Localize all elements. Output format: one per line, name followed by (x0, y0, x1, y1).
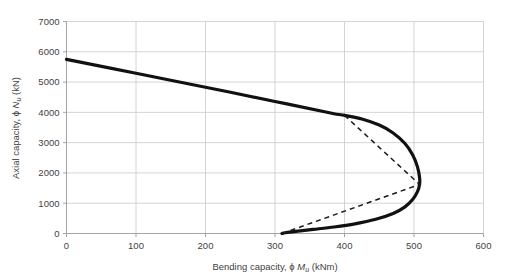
x-axis-title-phi: ϕ (289, 261, 297, 272)
x-tick-labels: 0100200300400500600 (64, 240, 492, 251)
x-axis-title: Bending capacity, ϕ Mu (kNm) (212, 261, 337, 273)
svg-text:Bending capacity, ϕ Mu (kNm): Bending capacity, ϕ Mu (kNm) (212, 261, 337, 273)
y-tick-label: 6000 (38, 46, 59, 57)
x-tick-label: 500 (406, 240, 422, 251)
svg-text:Axial capacity, ϕ Nu (kN): Axial capacity, ϕ Nu (kN) (10, 77, 22, 179)
x-tick-label: 600 (476, 240, 492, 251)
y-axis-title-post: (kN) (10, 77, 21, 98)
curve-dashed-approximation (282, 115, 420, 233)
x-axis-title-post: (kNm) (309, 261, 338, 272)
y-tick-label: 5000 (38, 76, 59, 87)
x-tick-label: 0 (64, 240, 69, 251)
series-paths (67, 59, 420, 233)
y-tick-label: 0 (54, 228, 59, 239)
interaction-diagram-chart: 0100200300400500600 01000200030004000500… (0, 0, 515, 278)
y-tick-label: 1000 (38, 198, 59, 209)
chart-canvas: 0100200300400500600 01000200030004000500… (0, 0, 515, 278)
x-axis-title-symbol: M (297, 261, 305, 272)
gridlines (67, 22, 484, 234)
curve-solid-interaction (67, 59, 420, 233)
x-tick-label: 100 (128, 240, 144, 251)
y-tick-labels: 01000200030004000500060007000 (38, 16, 59, 239)
y-tick-label: 3000 (38, 137, 59, 148)
y-tick-label: 4000 (38, 107, 59, 118)
tick-marks (63, 22, 484, 238)
y-tick-label: 7000 (38, 16, 59, 27)
x-axis-title-pre: Bending capacity, (212, 261, 289, 272)
y-axis-title: Axial capacity, ϕ Nu (kN) (10, 77, 22, 179)
y-axis-title-pre: Axial capacity, (10, 116, 21, 179)
x-tick-label: 400 (337, 240, 353, 251)
y-tick-label: 2000 (38, 167, 59, 178)
x-tick-label: 300 (267, 240, 283, 251)
y-axis-title-phi: ϕ (10, 108, 21, 116)
x-tick-label: 200 (198, 240, 214, 251)
